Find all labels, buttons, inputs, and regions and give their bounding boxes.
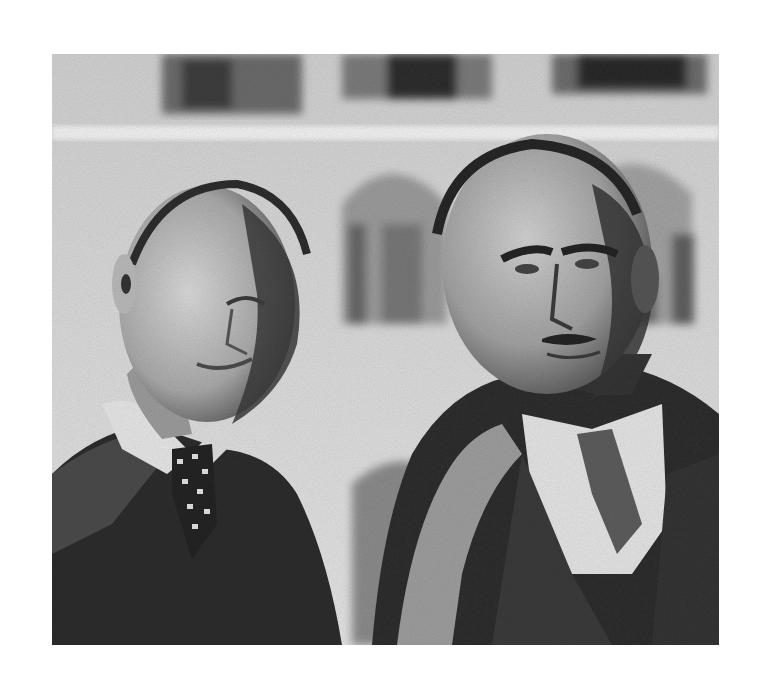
photograph [52, 54, 719, 645]
photo-scene [52, 54, 719, 645]
